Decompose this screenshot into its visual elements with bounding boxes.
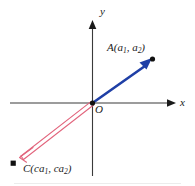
vector-a-label: A(a1, a2) — [107, 42, 145, 55]
vector-c-label-end: ) — [68, 162, 72, 174]
vector-c-label: C(ca1, ca2) — [23, 163, 71, 176]
origin-label: O — [95, 104, 103, 115]
vector-a-label-end: ) — [141, 41, 145, 53]
vector-a-label-mid: , a — [127, 41, 138, 53]
vector-diagram-figure: y x O A(a1, a2) C(ca1, ca2) — [0, 0, 195, 186]
x-axis-arrowhead-icon — [167, 99, 176, 107]
vector-a-shaft — [93, 66, 146, 103]
vector-c-arrowhead-icon — [20, 148, 34, 163]
y-axis-arrowhead-icon — [89, 20, 97, 29]
vector-a-arrow — [93, 58, 153, 103]
diagram-canvas — [0, 0, 195, 186]
vector-c-label-head: C(ca — [23, 162, 44, 174]
point-c-dot — [11, 161, 16, 166]
vector-c-label-mid: , ca — [48, 162, 64, 174]
point-a-dot — [150, 56, 155, 61]
vector-a-label-head: A(a — [107, 41, 123, 53]
x-axis-label: x — [180, 97, 185, 108]
vector-c-edge-lower — [24, 105, 94, 160]
y-axis-label: y — [100, 6, 105, 17]
vector-c-arrow — [20, 102, 94, 163]
y-axis — [89, 20, 97, 176]
vector-c-edge-upper — [21, 102, 91, 156]
